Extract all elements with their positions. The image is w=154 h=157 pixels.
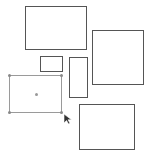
rectangle-bottom[interactable] xyxy=(79,104,135,150)
rectangle-tall[interactable] xyxy=(69,57,88,98)
rectangle-right[interactable] xyxy=(92,30,144,85)
resize-handle-bottom-left[interactable] xyxy=(8,111,11,114)
canvas[interactable] xyxy=(0,0,154,157)
resize-handle-top-right[interactable] xyxy=(60,74,63,77)
arrow-pointer-icon xyxy=(63,113,73,125)
rectangle-top[interactable] xyxy=(25,6,87,50)
center-point-icon xyxy=(35,93,38,96)
resize-handle-top-left[interactable] xyxy=(8,74,11,77)
rectangle-small[interactable] xyxy=(40,56,63,72)
